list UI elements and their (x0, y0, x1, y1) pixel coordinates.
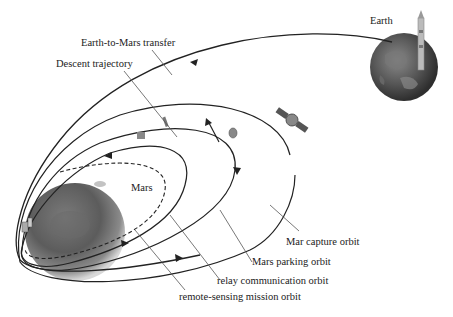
label-parking-orbit: Mars parking orbit (252, 256, 331, 268)
label-mars: Mars (131, 182, 153, 194)
relay-arrow-icon (175, 254, 183, 262)
leader-descent (124, 71, 177, 137)
separation-arrowhead-icon (205, 118, 212, 126)
label-remote-sensing-orbit: remote-sensing mission orbit (179, 291, 301, 303)
label-capture-orbit: Mar capture orbit (286, 236, 359, 248)
label-earth: Earth (370, 15, 393, 27)
mars-mission-diagram: Earth Mars Earth-to-Mars transfer Descen… (0, 0, 453, 317)
relay-top-arrow-icon (104, 152, 112, 159)
satellite-icon (274, 105, 310, 135)
leader-parking (220, 210, 252, 262)
leader-capture (270, 205, 299, 231)
leader-relay (170, 215, 220, 280)
separation-arrow (209, 123, 219, 142)
descent-module-icon (137, 117, 169, 139)
planet-earth-icon (370, 33, 438, 101)
label-descent-trajectory: Descent trajectory (56, 58, 133, 70)
label-relay-orbit: relay communication orbit (217, 275, 328, 287)
launch-rocket-icon (418, 10, 424, 70)
lander-capsule-icon (229, 128, 237, 138)
transfer-arrow-icon (190, 59, 198, 66)
remote-sensing-arrow-icon (121, 240, 129, 247)
label-earth-to-mars-transfer: Earth-to-Mars transfer (81, 37, 175, 49)
